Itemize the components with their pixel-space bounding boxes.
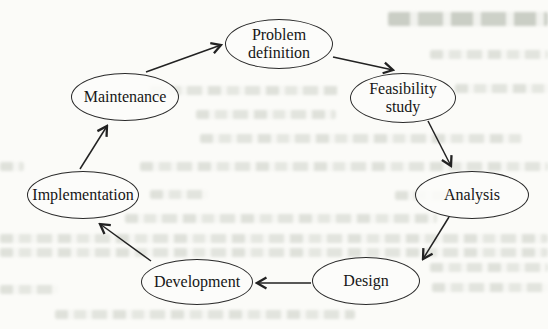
bleedthrough-text-line <box>125 214 437 223</box>
bleedthrough-text-line <box>140 162 548 171</box>
node-maintenance-label: Maintenance <box>84 88 167 106</box>
node-problem-definition-label: Problem definition <box>238 26 320 63</box>
node-feasibility-study-label: Feasibility study <box>362 80 444 117</box>
arrow-implementation-to-maintenance <box>80 126 107 169</box>
bleedthrough-text-line <box>0 248 548 257</box>
node-maintenance: Maintenance <box>71 73 179 121</box>
bleedthrough-text-line <box>55 310 355 319</box>
node-development-label: Development <box>154 273 240 291</box>
node-development: Development <box>141 259 253 305</box>
bleedthrough-text-line <box>200 134 522 143</box>
bleedthrough-text-line <box>432 283 548 292</box>
bleedthrough-text-line <box>0 285 58 294</box>
node-problem-definition: Problem definition <box>225 19 333 69</box>
bleedthrough-heading <box>388 12 548 26</box>
bleedthrough-text-line <box>430 50 548 59</box>
node-design-label: Design <box>343 272 388 290</box>
bleedthrough-text-line <box>150 190 208 199</box>
bleedthrough-text-line <box>430 263 548 272</box>
bleedthrough-text-line <box>455 84 548 93</box>
bleedthrough-text-line <box>196 110 336 119</box>
bleedthrough-text-line <box>0 162 24 171</box>
node-analysis-label: Analysis <box>444 186 500 204</box>
arrow-analysis-to-design <box>423 217 449 259</box>
node-design: Design <box>312 257 420 305</box>
node-analysis: Analysis <box>415 171 529 219</box>
node-implementation-label: Implementation <box>32 186 133 204</box>
arrow-feasibility-study-to-analysis <box>428 121 451 166</box>
node-feasibility-study: Feasibility study <box>350 73 456 123</box>
bleedthrough-text-line <box>0 234 548 243</box>
arrow-maintenance-to-problem-definition <box>146 45 221 72</box>
arrow-development-to-implementation <box>100 224 151 261</box>
arrow-problem-definition-to-feasibility-study <box>333 57 393 70</box>
scanned-page: Problem definition Feasibility study Ana… <box>0 0 548 329</box>
node-implementation: Implementation <box>27 171 139 219</box>
